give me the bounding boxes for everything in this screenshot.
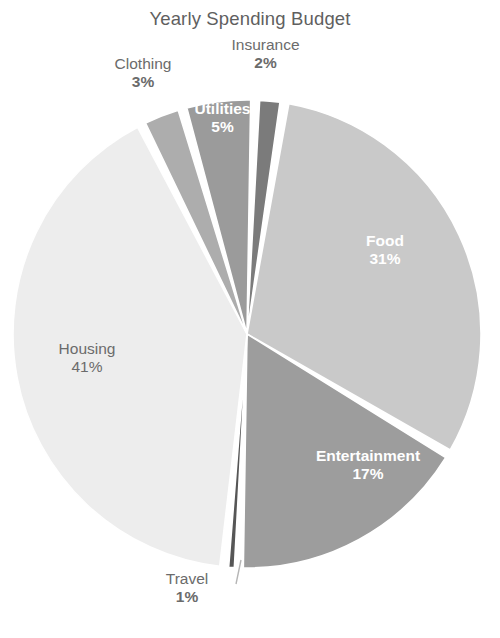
slice-label-housing: Housing 41% xyxy=(22,340,152,377)
slice-label-utilities-name: Utilities xyxy=(170,100,275,118)
slice-label-clothing-name: Clothing xyxy=(88,55,198,73)
slice-label-housing-name: Housing xyxy=(22,340,152,358)
slice-label-food-name: Food xyxy=(330,232,440,250)
slice-label-travel: Travel 1% xyxy=(132,570,242,607)
slice-label-insurance: Insurance 2% xyxy=(203,36,328,73)
slice-label-clothing-percent: 3% xyxy=(88,73,198,91)
slice-label-travel-percent: 1% xyxy=(132,588,242,606)
slice-label-insurance-name: Insurance xyxy=(203,36,328,54)
slice-label-food-percent: 31% xyxy=(330,250,440,268)
slice-label-utilities-percent: 5% xyxy=(170,118,275,136)
slice-label-entertainment-name: Entertainment xyxy=(288,447,448,465)
pie-chart: Yearly Spending Budget Clothing 3% Insur… xyxy=(0,0,500,638)
slice-label-insurance-percent: 2% xyxy=(203,54,328,72)
slice-label-utilities: Utilities 5% xyxy=(170,100,275,137)
slice-label-travel-name: Travel xyxy=(132,570,242,588)
slice-label-entertainment: Entertainment 17% xyxy=(288,447,448,484)
slice-label-clothing: Clothing 3% xyxy=(88,55,198,92)
pie-slice-group xyxy=(13,100,481,568)
slice-label-entertainment-percent: 17% xyxy=(288,465,448,483)
pie-graphic xyxy=(0,0,500,638)
slice-label-housing-percent: 41% xyxy=(22,358,152,376)
slice-label-food: Food 31% xyxy=(330,232,440,269)
